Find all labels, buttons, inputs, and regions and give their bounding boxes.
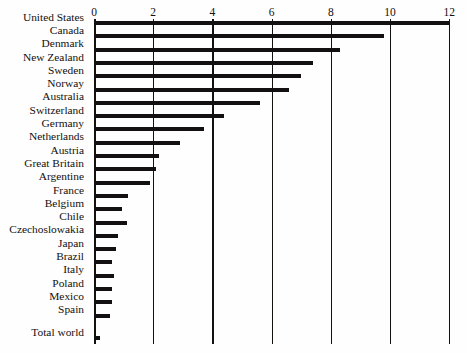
gridline-2	[153, 19, 154, 344]
bar-norway	[94, 88, 289, 92]
category-label-czechoslowakia: Czechoslowakia	[9, 224, 84, 235]
gridline-8	[331, 19, 332, 344]
bar-brazil	[94, 260, 112, 264]
category-label-australia: Australia	[42, 91, 84, 102]
gridline-12	[449, 19, 450, 344]
category-label-netherlands: Netherlands	[29, 131, 84, 142]
category-label-chile: Chile	[59, 211, 84, 222]
plot-area: 024681012	[94, 0, 467, 353]
x-tick-label-4: 4	[210, 7, 216, 19]
category-label-poland: Poland	[52, 278, 84, 289]
category-label-total-world: Total world	[31, 327, 84, 338]
bar-argentine	[94, 181, 150, 185]
bar-czechoslowakia	[94, 234, 118, 238]
gridline-6	[272, 19, 273, 344]
category-label-brazil: Brazil	[56, 251, 84, 262]
bar-united-states	[94, 21, 449, 25]
category-label-france: France	[53, 185, 84, 196]
category-label-column: United StatesCanadaDenmarkNew ZealandSwe…	[0, 0, 90, 353]
bar-belgium	[94, 207, 122, 211]
category-label-united-states: United States	[23, 12, 84, 23]
bar-poland	[94, 287, 112, 291]
category-label-denmark: Denmark	[42, 38, 84, 49]
x-tick-label-6: 6	[269, 7, 275, 19]
bar-great-britain	[94, 167, 156, 171]
bar-germany	[94, 127, 204, 131]
bar-chart: United StatesCanadaDenmarkNew ZealandSwe…	[0, 0, 467, 353]
bar-switzerland	[94, 114, 224, 118]
gridline-4	[212, 19, 213, 344]
category-label-great-britain: Great Britain	[24, 158, 84, 169]
category-label-canada: Canada	[50, 25, 84, 36]
x-tick-label-2: 2	[150, 7, 156, 19]
category-label-sweden: Sweden	[48, 65, 84, 76]
bar-canada	[94, 34, 384, 38]
x-tick-label-10: 10	[384, 7, 396, 19]
bar-total-world	[94, 336, 100, 340]
category-label-norway: Norway	[47, 78, 84, 89]
bar-denmark	[94, 48, 340, 52]
category-label-japan: Japan	[58, 238, 84, 249]
category-label-spain: Spain	[58, 304, 84, 315]
bar-netherlands	[94, 141, 180, 145]
category-label-argentine: Argentine	[39, 171, 84, 182]
bar-japan	[94, 247, 116, 251]
category-label-austria: Austria	[50, 145, 84, 156]
category-label-new-zealand: New Zealand	[23, 52, 84, 63]
bar-austria	[94, 154, 159, 158]
bar-new-zealand	[94, 61, 313, 65]
bar-australia	[94, 101, 260, 105]
bar-italy	[94, 274, 114, 278]
bar-chile	[94, 221, 127, 225]
x-tick-label-0: 0	[91, 7, 97, 19]
bar-spain	[94, 314, 110, 318]
x-tick-label-8: 8	[328, 7, 334, 19]
category-label-belgium: Belgium	[45, 198, 84, 209]
category-label-mexico: Mexico	[49, 291, 84, 302]
category-label-italy: Italy	[63, 264, 84, 275]
bar-france	[94, 194, 128, 198]
x-tick-label-12: 12	[443, 7, 455, 19]
category-label-germany: Germany	[42, 118, 84, 129]
gridline-10	[390, 19, 391, 344]
bar-sweden	[94, 74, 301, 78]
bar-mexico	[94, 300, 112, 304]
category-label-switzerland: Switzerland	[30, 105, 84, 116]
